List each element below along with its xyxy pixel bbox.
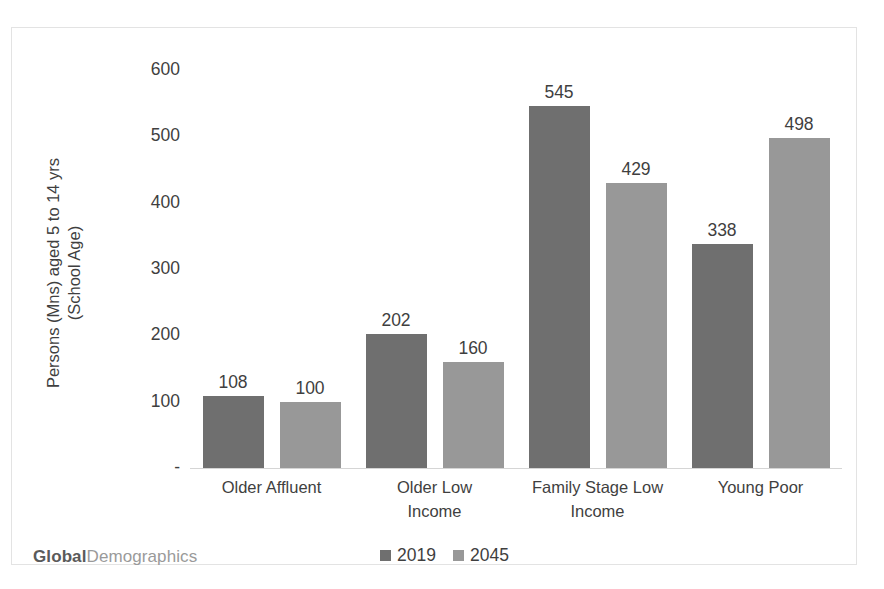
y-axis-tick-label: 200 [118, 326, 180, 344]
bar-2045-young-poor[interactable] [769, 138, 830, 468]
bar-group: 108100 [190, 70, 353, 468]
y-axis-tick-label: 500 [118, 127, 180, 145]
bar-group: 338498 [679, 70, 842, 468]
x-axis-categories: Older AffluentOlder LowIncomeFamily Stag… [190, 475, 842, 539]
bar-value-label: 545 [544, 83, 573, 101]
logo-demographics-text: Demographics [87, 547, 198, 566]
chart-container: Persons (Mns) aged 5 to 14 yrs (School A… [11, 27, 857, 565]
bar-2019-older-affluent[interactable] [203, 396, 264, 468]
x-axis-category-line: Family Stage Low [516, 475, 679, 499]
bar-2045-older-low-income[interactable] [443, 362, 504, 468]
x-axis-line [190, 468, 842, 469]
bar-2019-older-low-income[interactable] [366, 334, 427, 468]
chart-legend: 20192045 [380, 546, 509, 564]
y-axis-title-line-2: (School Age) [64, 158, 85, 388]
y-axis-tick-label: - [118, 459, 180, 477]
x-axis-category-label: Family Stage LowIncome [516, 475, 679, 523]
legend-label: 2019 [397, 546, 436, 564]
y-axis-tick-label: 600 [118, 61, 180, 79]
legend-item-2019[interactable]: 2019 [380, 546, 436, 564]
x-axis-category-label: Older LowIncome [353, 475, 516, 523]
y-axis-title: Persons (Mns) aged 5 to 14 yrs (School A… [41, 83, 87, 463]
bar-2045-older-affluent[interactable] [280, 402, 341, 468]
bar-value-label: 100 [295, 379, 324, 397]
bar-value-label: 202 [381, 311, 410, 329]
logo-global-text: Global [33, 547, 87, 566]
bar-2019-family-stage-low-income[interactable] [529, 106, 590, 468]
x-axis-category-line: Income [353, 499, 516, 523]
bar-value-label: 338 [707, 221, 736, 239]
plot-area: 108100202160545429338498 [190, 70, 842, 468]
bar-2045-family-stage-low-income[interactable] [606, 183, 667, 468]
bar-value-label: 160 [458, 339, 487, 357]
bar-group: 545429 [516, 70, 679, 468]
y-axis-title-line-1: Persons (Mns) aged 5 to 14 yrs [43, 158, 64, 388]
y-axis-tick-label: 400 [118, 194, 180, 212]
x-axis-category-line: Older Low [353, 475, 516, 499]
legend-label: 2045 [470, 546, 509, 564]
bar-value-label: 108 [218, 373, 247, 391]
legend-swatch-icon [453, 550, 464, 561]
y-axis-ticks: 600500400300200100- [112, 70, 180, 468]
y-axis-tick-label: 100 [118, 393, 180, 411]
bar-2019-young-poor[interactable] [692, 244, 753, 468]
legend-swatch-icon [380, 550, 391, 561]
chart-footer: GlobalDemographics 20192045 [12, 541, 858, 583]
bar-value-label: 498 [784, 115, 813, 133]
x-axis-category-label: Young Poor [679, 475, 842, 499]
legend-item-2045[interactable]: 2045 [453, 546, 509, 564]
x-axis-category-line: Young Poor [679, 475, 842, 499]
x-axis-category-line: Income [516, 499, 679, 523]
global-demographics-logo: GlobalDemographics [33, 546, 197, 568]
y-axis-tick-label: 300 [118, 260, 180, 278]
x-axis-category-line: Older Affluent [190, 475, 353, 499]
x-axis-category-label: Older Affluent [190, 475, 353, 499]
bar-group: 202160 [353, 70, 516, 468]
bar-value-label: 429 [621, 160, 650, 178]
